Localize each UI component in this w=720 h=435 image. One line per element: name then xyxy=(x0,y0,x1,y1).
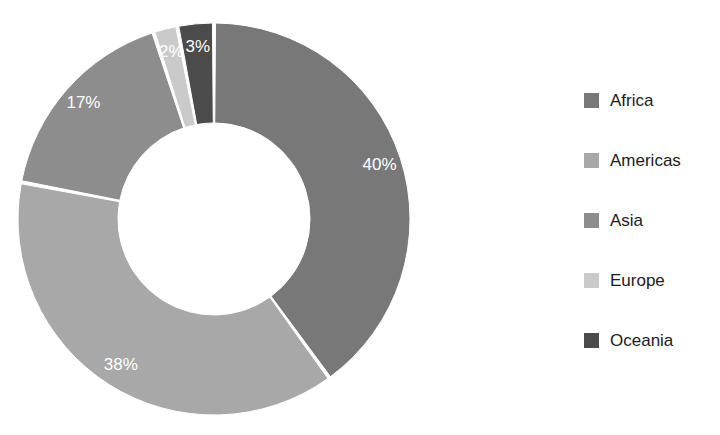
donut-slice-group xyxy=(18,23,410,415)
chart-legend: AfricaAmericasAsiaEuropeOceania xyxy=(584,92,714,348)
slice-label-asia: 17% xyxy=(66,93,100,112)
legend-item-label: Asia xyxy=(610,212,643,229)
legend-item-label: Europe xyxy=(610,272,665,289)
slice-label-oceania: 3% xyxy=(186,37,211,56)
legend-item-americas[interactable]: Americas xyxy=(584,152,714,168)
donut-chart-plot-area: 40%38%17%2%3% xyxy=(17,22,411,416)
legend-swatch-icon xyxy=(584,153,599,168)
legend-item-africa[interactable]: Africa xyxy=(584,92,714,108)
slice-label-europe: 2% xyxy=(159,42,184,61)
slice-label-africa: 40% xyxy=(362,155,396,174)
legend-item-asia[interactable]: Asia xyxy=(584,212,714,228)
legend-item-label: Oceania xyxy=(610,332,673,349)
donut-chart-svg: 40%38%17%2%3% xyxy=(17,22,411,416)
legend-item-oceania[interactable]: Oceania xyxy=(584,332,714,348)
legend-swatch-icon xyxy=(584,213,599,228)
slice-label-americas: 38% xyxy=(104,355,138,374)
donut-chart-figure: 40%38%17%2%3% AfricaAmericasAsiaEuropeOc… xyxy=(0,0,720,435)
legend-swatch-icon xyxy=(584,273,599,288)
legend-swatch-icon xyxy=(584,333,599,348)
legend-item-label: Americas xyxy=(610,152,681,169)
legend-item-label: Africa xyxy=(610,92,653,109)
legend-swatch-icon xyxy=(584,93,599,108)
legend-item-europe[interactable]: Europe xyxy=(584,272,714,288)
